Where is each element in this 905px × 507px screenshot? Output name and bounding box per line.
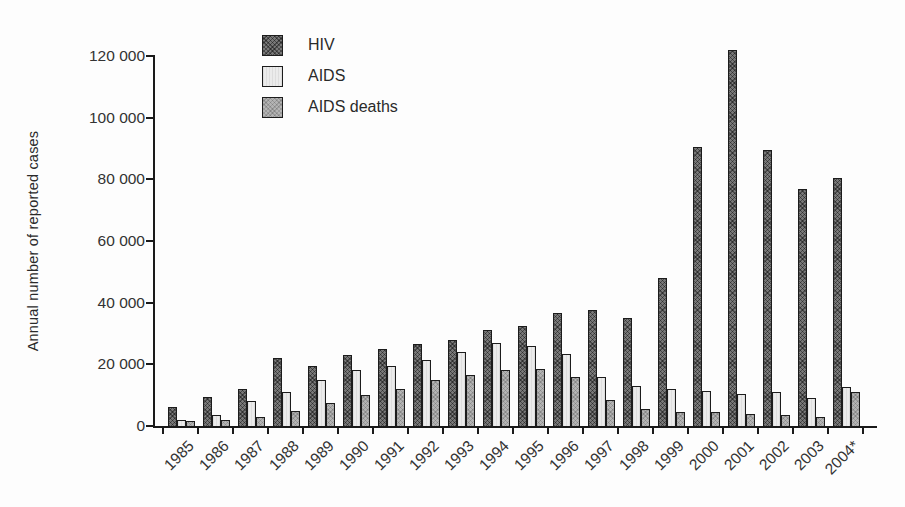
x-tick-mark <box>582 428 584 434</box>
legend-item-aids-deaths: AIDS deaths <box>262 96 398 118</box>
y-tick-mark <box>146 117 153 119</box>
y-tick-mark <box>146 363 153 365</box>
bar-aids-1992 <box>422 360 431 426</box>
bar-deaths-1986 <box>221 420 230 426</box>
y-tick-mark <box>146 425 153 427</box>
x-tick-mark <box>652 428 654 434</box>
x-tick-mark <box>442 428 444 434</box>
bar-aids-1996 <box>562 354 571 426</box>
bar-hiv-1999 <box>658 278 667 426</box>
bar-hiv-1994 <box>483 330 492 426</box>
bar-hiv-2002 <box>763 150 772 426</box>
bar-aids-2002 <box>772 392 781 426</box>
bar-deaths-1993 <box>466 375 475 426</box>
x-tick-mark <box>267 428 269 434</box>
legend-label-aids: AIDS <box>308 67 345 85</box>
bar-hiv-1993 <box>448 340 457 426</box>
y-tick-label: 40 000 <box>35 294 145 312</box>
aids-swatch-icon <box>262 66 283 87</box>
y-tick-label: 80 000 <box>35 170 145 188</box>
bar-deaths-2002 <box>781 415 790 426</box>
x-tick-mark <box>162 428 164 434</box>
x-axis-line <box>153 426 877 428</box>
bar-aids-1988 <box>282 392 291 426</box>
bar-deaths-1999 <box>676 412 685 426</box>
x-tick-mark <box>372 428 374 434</box>
y-tick-mark <box>146 55 153 57</box>
y-axis-line <box>153 55 155 428</box>
x-tick-mark <box>617 428 619 434</box>
bar-hiv-2001 <box>728 50 737 426</box>
bar-aids-1985 <box>177 420 186 426</box>
bar-aids-2003 <box>807 398 816 426</box>
bar-aids-1993 <box>457 352 466 426</box>
bar-hiv-2000 <box>693 147 702 426</box>
x-tick-mark <box>687 428 689 434</box>
y-tick-label: 100 000 <box>35 109 145 127</box>
bar-hiv-1990 <box>343 355 352 426</box>
bar-hiv-1997 <box>588 310 597 426</box>
bar-aids-1989 <box>317 380 326 426</box>
bar-hiv-1998 <box>623 318 632 426</box>
hiv-swatch-icon <box>262 35 283 56</box>
y-tick-label: 20 000 <box>35 355 145 373</box>
bar-aids-1998 <box>632 386 641 426</box>
bar-deaths-1997 <box>606 400 615 426</box>
x-tick-mark <box>197 428 199 434</box>
y-tick-label: 120 000 <box>35 47 145 65</box>
bar-aids-2000 <box>702 391 711 426</box>
x-tick-mark <box>827 428 829 434</box>
bar-aids-2001 <box>737 394 746 426</box>
y-tick-label: 60 000 <box>35 232 145 250</box>
bar-deaths-2000 <box>711 412 720 426</box>
bar-hiv-2004 <box>833 178 842 426</box>
bar-hiv-1991 <box>378 349 387 426</box>
legend-label-aids-deaths: AIDS deaths <box>308 98 398 116</box>
bar-hiv-1987 <box>238 389 247 426</box>
x-tick-mark <box>792 428 794 434</box>
bar-deaths-2003 <box>816 417 825 426</box>
x-tick-mark <box>302 428 304 434</box>
bar-deaths-1988 <box>291 411 300 426</box>
aids-deaths-swatch-icon <box>262 97 283 118</box>
y-tick-mark <box>146 178 153 180</box>
bar-deaths-1990 <box>361 395 370 426</box>
bar-aids-1994 <box>492 343 501 426</box>
bar-deaths-1991 <box>396 389 405 426</box>
x-tick-mark <box>722 428 724 434</box>
y-tick-mark <box>146 302 153 304</box>
bar-hiv-1985 <box>168 407 177 426</box>
bar-hiv-1989 <box>308 366 317 426</box>
bar-deaths-1985 <box>186 421 195 426</box>
x-tick-mark <box>477 428 479 434</box>
y-tick-mark <box>146 240 153 242</box>
bar-deaths-1998 <box>641 409 650 426</box>
x-tick-mark <box>547 428 549 434</box>
bar-deaths-1989 <box>326 403 335 426</box>
legend: HIV AIDS AIDS deaths <box>262 34 398 127</box>
bar-hiv-1995 <box>518 326 527 426</box>
bar-aids-1991 <box>387 366 396 426</box>
bar-deaths-1992 <box>431 380 440 426</box>
legend-item-hiv: HIV <box>262 34 398 56</box>
bar-aids-1999 <box>667 389 676 426</box>
x-tick-mark <box>337 428 339 434</box>
y-tick-label: 0 <box>35 417 145 435</box>
bar-aids-1986 <box>212 415 221 426</box>
legend-item-aids: AIDS <box>262 65 398 87</box>
bar-deaths-1987 <box>256 417 265 426</box>
bar-aids-2004 <box>842 387 851 426</box>
x-tick-mark <box>862 428 864 434</box>
bar-hiv-1992 <box>413 344 422 426</box>
bar-hiv-1986 <box>203 397 212 426</box>
bar-deaths-1994 <box>501 370 510 426</box>
bar-aids-1997 <box>597 377 606 426</box>
bar-deaths-1996 <box>571 377 580 426</box>
x-tick-mark <box>757 428 759 434</box>
bar-chart-figure: Annual number of reported cases HIV AIDS… <box>0 0 905 507</box>
bar-hiv-1996 <box>553 313 562 426</box>
x-tick-mark <box>232 428 234 434</box>
bar-aids-1995 <box>527 346 536 426</box>
bar-aids-1990 <box>352 370 361 426</box>
bar-deaths-1995 <box>536 369 545 426</box>
